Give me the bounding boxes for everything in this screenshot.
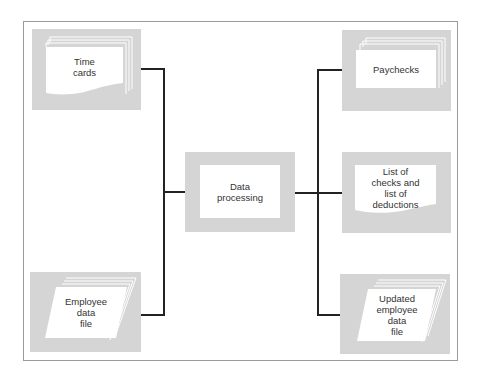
connector-right-vertical [317, 69, 319, 316]
node-list-of-checks[interactable]: List of checks and list of deductions [342, 152, 451, 233]
node-label: Updated employee data file [362, 289, 432, 341]
node-label: Paychecks [356, 50, 436, 88]
connector-updated-h [317, 314, 340, 316]
node-data-processing[interactable]: Data processing [185, 152, 295, 232]
node-employee-data-file[interactable]: Employee data file [30, 272, 141, 352]
node-paychecks[interactable]: Paychecks [342, 30, 451, 111]
node-label: Data processing [200, 165, 280, 218]
node-label: List of checks and list of deductions [355, 165, 436, 211]
connector-left-to-process [163, 191, 185, 193]
node-updated-employee-data-file[interactable]: Updated employee data file [340, 274, 450, 354]
node-label: Time cards [46, 47, 123, 87]
connector-paychecks-h [317, 69, 342, 71]
connector-time-cards-h [141, 68, 165, 70]
connector-employee-h [141, 314, 165, 316]
node-label: Employee data file [50, 287, 122, 338]
node-time-cards[interactable]: Time cards [32, 29, 141, 110]
